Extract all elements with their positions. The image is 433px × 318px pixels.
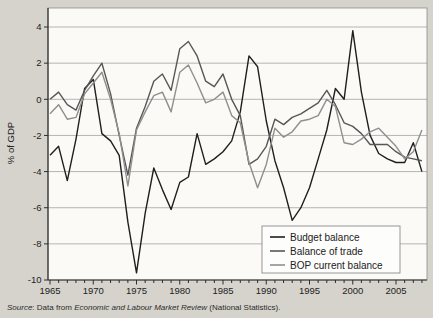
y-tick-label: -6 [33, 202, 41, 213]
source-word: Source [7, 303, 32, 312]
source-journal-title: Economic and Labour Market Review [74, 303, 207, 312]
x-axis-tick-labels: 196519701975198019851990199520002005 [39, 285, 406, 296]
y-tick-label: -8 [33, 238, 41, 249]
y-axis-title: % of GDP [5, 122, 16, 164]
chart: 420-2-4-6-8-10 1965197019751980198519901… [0, 0, 433, 298]
y-tick-label: 0 [36, 94, 41, 105]
legend-label: BOP current balance [290, 260, 383, 271]
legend: Budget balanceBalance of tradeBOP curren… [262, 226, 400, 273]
source-end-text: (National Statistics). [207, 303, 280, 312]
x-tick-label: 1975 [126, 285, 147, 296]
x-axis-ticks [50, 280, 422, 285]
x-tick-label: 1995 [299, 285, 320, 296]
chart-figure: 420-2-4-6-8-10 1965197019751980198519901… [0, 0, 433, 318]
x-tick-label: 1970 [83, 285, 104, 296]
y-tick-label: 4 [36, 21, 41, 32]
legend-label: Budget balance [290, 232, 360, 243]
y-tick-label: -10 [28, 274, 42, 285]
legend-label: Balance of trade [290, 246, 363, 257]
x-tick-label: 2005 [385, 285, 406, 296]
x-tick-label: 2000 [342, 285, 363, 296]
x-tick-label: 1990 [256, 285, 277, 296]
y-axis-tick-labels: 420-2-4-6-8-10 [28, 21, 42, 285]
x-tick-label: 1965 [39, 285, 60, 296]
y-tick-label: -2 [33, 130, 41, 141]
x-tick-label: 1980 [169, 285, 190, 296]
y-tick-label: 2 [36, 57, 41, 68]
source-note: Source: Data from Economic and Labour Ma… [7, 303, 280, 312]
x-tick-label: 1985 [212, 285, 233, 296]
y-tick-label: -4 [33, 166, 41, 177]
source-middle-text: : Data from [32, 303, 74, 312]
